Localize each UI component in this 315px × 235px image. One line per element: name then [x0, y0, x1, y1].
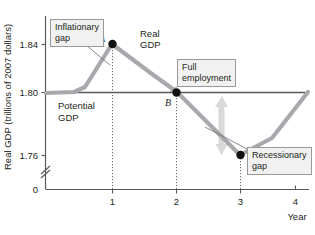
real-gdp-label-line2: GDP — [140, 39, 161, 50]
potential-gdp-label-line2: GDP — [58, 112, 79, 123]
callout-recessionary-gap: Recessionary gap — [247, 147, 312, 175]
callout-recessionary-line2: gap — [252, 161, 307, 172]
real-gdp-chart: 1.84 1.80 1.76 0 1 2 3 4 Year Real GDP (… — [0, 0, 315, 235]
figure-container: 1.84 1.80 1.76 0 1 2 3 4 Year Real GDP (… — [0, 0, 315, 235]
real-gdp-label-line1: Real — [140, 28, 160, 39]
y-tick-label-zero: 0 — [33, 184, 38, 195]
y-axis-title: Real GDP (trillions of 2007 dollars) — [2, 24, 13, 170]
y-tick-label-184: 1.84 — [20, 39, 39, 50]
callout-recessionary-line1: Recessionary — [252, 150, 307, 161]
potential-gdp-label-line1: Potential — [58, 100, 95, 111]
leader-line-recessionary — [205, 127, 249, 150]
x-tick-label-2: 2 — [174, 196, 179, 207]
callout-full-line2: employment — [182, 73, 231, 84]
x-tick-label-4: 4 — [293, 196, 298, 207]
x-tick-label-3: 3 — [238, 196, 243, 207]
y-tick-label-176: 1.76 — [20, 150, 39, 161]
x-axis-title: Year — [287, 211, 306, 222]
data-point-c[interactable] — [236, 151, 244, 159]
callout-full-line1: Full — [182, 62, 231, 73]
y-tick-label-180: 1.80 — [20, 87, 39, 98]
data-point-a[interactable] — [108, 40, 116, 48]
x-tick-label-1: 1 — [110, 196, 115, 207]
callout-full-employment: Full employment — [177, 59, 236, 87]
callout-inflationary-line1: Inflationary — [55, 22, 99, 33]
data-point-b-label: B — [165, 97, 171, 108]
callout-inflationary-line2: gap — [55, 33, 99, 44]
recessionary-gap-arrow-icon — [215, 96, 228, 155]
callout-inflationary-gap: Inflationary gap — [50, 19, 104, 47]
